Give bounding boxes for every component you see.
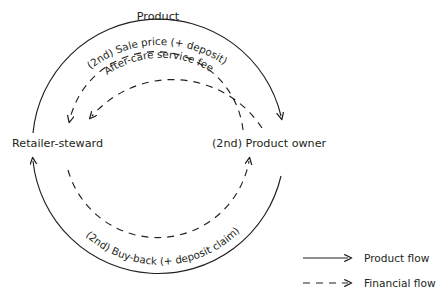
diagram-canvas: (2nd) Sale price (+ deposit) After-care … [0, 0, 436, 305]
legend-label-product-flow: Product flow [364, 252, 430, 264]
legend-label-financial-flow: Financial flow [364, 277, 436, 289]
legend-item-product-flow: Product flow [303, 252, 430, 264]
node-retailer-steward: Retailer-steward [12, 137, 103, 150]
label-product-top: Product [137, 10, 180, 23]
buy-back-arc [68, 161, 249, 238]
label-buy-back: (2nd) Buy-back (+ deposit claim) [84, 224, 242, 267]
legend-item-financial-flow: Financial flow [303, 277, 436, 289]
flow-buy-back [68, 161, 249, 238]
node-product-owner: (2nd) Product owner [212, 137, 327, 150]
legend: Product flow Financial flow [303, 252, 436, 289]
